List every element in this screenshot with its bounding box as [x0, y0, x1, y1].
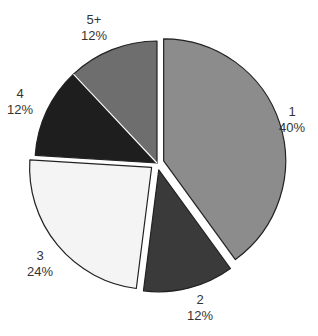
label-pct: 24%: [20, 264, 60, 280]
label-pct: 12%: [0, 102, 40, 118]
label-name: 2: [180, 292, 220, 308]
label-slice-2: 2 12%: [180, 292, 220, 324]
label-slice-3: 3 24%: [20, 248, 60, 280]
label-slice-1: 1 40%: [272, 104, 312, 136]
pie-chart: [0, 0, 318, 336]
label-slice-5plus: 5+ 12%: [74, 12, 114, 44]
label-slice-4: 4 12%: [0, 86, 40, 118]
label-name: 4: [0, 86, 40, 102]
label-name: 3: [20, 248, 60, 264]
label-name: 5+: [74, 12, 114, 28]
label-name: 1: [272, 104, 312, 120]
label-pct: 40%: [272, 120, 312, 136]
label-pct: 12%: [180, 308, 220, 324]
label-pct: 12%: [74, 28, 114, 44]
